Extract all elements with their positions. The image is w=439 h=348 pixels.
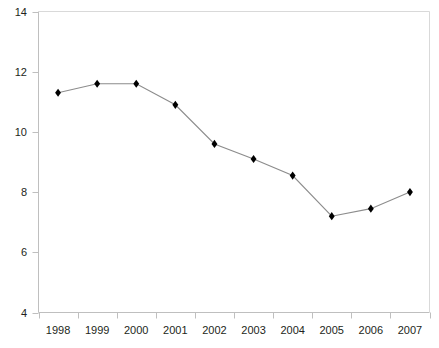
data-point-marker	[94, 80, 100, 88]
x-axis-tick-label: 1998	[38, 325, 78, 336]
x-axis-tick-label: 2005	[312, 325, 352, 336]
axis-lines	[39, 12, 430, 313]
y-axis-tick-label: 10	[5, 127, 27, 138]
x-axis-tick-label: 2007	[390, 325, 430, 336]
series-line	[58, 84, 410, 216]
data-point-marker	[368, 205, 374, 213]
x-axis-tick-label: 2006	[351, 325, 391, 336]
x-axis-tick-label: 1999	[77, 325, 117, 336]
data-point-marker	[133, 80, 139, 88]
y-axis-tick-label: 12	[5, 67, 27, 78]
x-axis-tick-label: 2001	[155, 325, 195, 336]
x-axis-tick-label: 2004	[273, 325, 313, 336]
data-point-marker	[172, 101, 178, 109]
plot-area	[0, 0, 439, 348]
data-point-marker	[55, 89, 61, 97]
x-axis-tick-label: 2000	[116, 325, 156, 336]
y-axis-tick-label: 6	[5, 247, 27, 258]
series-markers	[55, 80, 413, 221]
data-point-marker	[212, 140, 218, 148]
x-axis-ticks	[40, 313, 431, 319]
y-axis-tick-label: 8	[5, 187, 27, 198]
x-axis-tick-label: 2002	[194, 325, 234, 336]
data-point-marker	[251, 155, 257, 163]
y-axis-tick-label: 14	[5, 7, 27, 18]
x-axis-tick-label: 2003	[234, 325, 274, 336]
y-axis-ticks	[33, 13, 39, 314]
line-chart: 141210864 199819992000200120022003200420…	[0, 0, 439, 348]
data-point-marker	[407, 188, 413, 196]
y-axis-tick-label: 4	[5, 308, 27, 319]
